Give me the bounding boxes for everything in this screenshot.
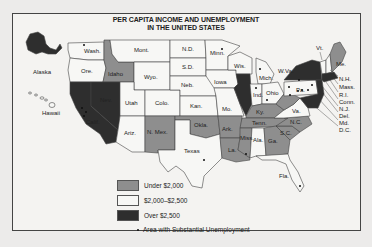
label-tenn: Tenn. bbox=[252, 120, 267, 126]
label-nev: Nev. bbox=[100, 97, 112, 103]
label-alaska: Alaska bbox=[33, 69, 52, 75]
label-mich: Mich. bbox=[259, 75, 274, 81]
label-wva: W.Va. bbox=[278, 68, 294, 74]
label-wyo: Wyo. bbox=[144, 74, 158, 80]
legend-item-2000-2500: $2,000–$2,500 bbox=[117, 195, 277, 207]
legend-label: Area with Substantial Unemployment bbox=[143, 226, 250, 233]
legend-swatch-over-2500 bbox=[117, 210, 139, 221]
label-sc: S.C. bbox=[280, 130, 292, 136]
legend-label: Over $2,500 bbox=[144, 212, 180, 219]
legend-item-under-2000: Under $2,000 bbox=[117, 180, 277, 192]
label-utah: Utah bbox=[125, 100, 138, 106]
label-ky: Ky. bbox=[256, 109, 265, 115]
label-va: Va. bbox=[292, 108, 301, 114]
label-okla: Okla. bbox=[194, 122, 208, 128]
label-kan: Kan. bbox=[190, 103, 203, 109]
unemployment-dot-icon bbox=[137, 229, 139, 231]
label-me: Me. bbox=[336, 61, 346, 67]
label-ala: Ala. bbox=[253, 137, 264, 143]
label-md: Md. bbox=[339, 120, 349, 126]
legend-item-over-2500: Over $2,500 bbox=[117, 210, 277, 222]
state-me bbox=[330, 42, 346, 72]
label-ariz: Ariz. bbox=[124, 130, 136, 136]
label-nj: N.J. bbox=[339, 106, 350, 112]
label-mo: Mo. bbox=[222, 106, 232, 112]
label-hawaii: Hawaii bbox=[42, 110, 60, 116]
label-pa: Pa. bbox=[296, 87, 305, 93]
label-ri: R.I. bbox=[339, 92, 349, 98]
state-alaska bbox=[26, 32, 62, 54]
label-wash: Wash. bbox=[84, 48, 101, 54]
label-mont: Mont. bbox=[134, 47, 149, 53]
legend-item-unemployment: Area with Substantial Unemployment bbox=[137, 226, 250, 233]
label-idaho: Idaho bbox=[108, 71, 124, 77]
label-vt: Vt. bbox=[316, 45, 324, 51]
label-ore: Ore. bbox=[81, 68, 93, 74]
label-calif: Calif. bbox=[86, 119, 100, 125]
label-nc: N.C. bbox=[290, 119, 302, 125]
label-iowa: Iowa bbox=[214, 79, 227, 85]
label-nmex: N. Mex. bbox=[147, 129, 168, 135]
label-nd: N.D. bbox=[182, 46, 194, 52]
state-hawaii bbox=[29, 92, 56, 108]
label-ga: Ga. bbox=[268, 138, 278, 144]
label-la: La. bbox=[228, 147, 237, 153]
label-conn: Conn. bbox=[339, 99, 355, 105]
label-colo: Colo. bbox=[155, 100, 169, 106]
label-mass: Mass. bbox=[339, 84, 355, 90]
label-neb: Neb. bbox=[181, 82, 194, 88]
label-minn: Minn. bbox=[210, 50, 225, 56]
label-wis: Wis. bbox=[234, 63, 246, 69]
label-del: Del. bbox=[339, 113, 350, 119]
label-dc: D.C. bbox=[339, 127, 351, 133]
label-sd: S.D. bbox=[182, 64, 194, 70]
label-fla: Fla. bbox=[279, 173, 289, 179]
label-ohio: Ohio bbox=[266, 90, 279, 96]
state-ala bbox=[250, 128, 266, 158]
label-ark: Ark. bbox=[222, 126, 233, 132]
legend-swatch-under-2000 bbox=[117, 180, 139, 191]
label-ind: Ind. bbox=[253, 92, 263, 98]
label-nh: N.H. bbox=[339, 76, 351, 82]
legend-label: $2,000–$2,500 bbox=[144, 197, 187, 204]
legend-label: Under $2,000 bbox=[144, 182, 183, 189]
label-texas: Texas bbox=[184, 148, 200, 154]
legend-swatch-2000-2500 bbox=[117, 195, 139, 206]
